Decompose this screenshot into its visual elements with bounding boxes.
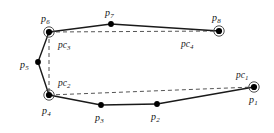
- vertex-label-p2: p2: [151, 112, 160, 122]
- vertex-label-sub-p1: 1: [254, 99, 258, 107]
- vertex-label-p1: p1: [249, 95, 258, 105]
- vertex-label-p7: p7: [105, 8, 114, 18]
- vertex-label-p8: p8: [212, 13, 221, 23]
- vertex-p6[interactable]: [46, 29, 52, 35]
- edge-p3-p2: [101, 104, 157, 105]
- edge-p2-p1: [157, 87, 254, 104]
- control-label-base-pc2: pc: [58, 78, 67, 88]
- vertex-label-sub-p2: 2: [156, 116, 160, 124]
- control-label-pc2: pc2: [58, 79, 70, 89]
- vertex-p5[interactable]: [35, 59, 41, 65]
- vertex-label-sub-p5: 5: [25, 64, 29, 72]
- vertex-label-p4: p4: [42, 106, 51, 116]
- control-label-base-pc4: pc: [181, 39, 190, 49]
- vertex-label-sub-p7: 7: [110, 12, 114, 20]
- vertex-p2[interactable]: [154, 101, 160, 107]
- control-label-base-pc1: pc: [236, 70, 245, 80]
- vertex-layer: [35, 21, 259, 108]
- solid-edge-layer: [38, 24, 254, 105]
- vertex-label-sub-p8: 8: [217, 17, 221, 25]
- dashed-edge-layer: [49, 31, 254, 95]
- control-label-pc4: pc4: [181, 40, 193, 50]
- vertex-label-sub-p4: 4: [47, 110, 51, 118]
- edge-p6-p7: [49, 24, 111, 32]
- vertex-label-p6: p6: [41, 14, 50, 24]
- chord-p4-p1: [49, 87, 254, 95]
- control-label-sub-pc2: 2: [67, 82, 70, 89]
- control-label-sub-pc4: 4: [190, 43, 193, 50]
- vertex-label-p5: p5: [20, 60, 29, 70]
- vertex-label-sub-p3: 3: [100, 117, 104, 125]
- control-label-pc1: pc1: [236, 71, 248, 81]
- vertex-label-p3: p3: [95, 113, 104, 123]
- control-label-pc3: pc3: [58, 41, 70, 51]
- control-label-base-pc3: pc: [58, 40, 67, 50]
- chord-p6-p8: [49, 31, 219, 32]
- figure-canvas: p1p2p3p4p5p6p7p8pc1pc2pc3pc4: [0, 0, 274, 133]
- vertex-p3[interactable]: [98, 102, 104, 108]
- vertex-p8[interactable]: [216, 28, 222, 34]
- vertex-p1[interactable]: [251, 84, 257, 90]
- vertex-p4[interactable]: [46, 92, 52, 98]
- edge-p7-p8: [111, 24, 219, 31]
- control-label-sub-pc1: 1: [245, 74, 248, 81]
- edge-p4-p3: [49, 95, 101, 105]
- control-label-sub-pc3: 3: [67, 44, 70, 51]
- vertex-p7[interactable]: [108, 21, 114, 27]
- vertex-label-sub-p6: 6: [46, 18, 50, 26]
